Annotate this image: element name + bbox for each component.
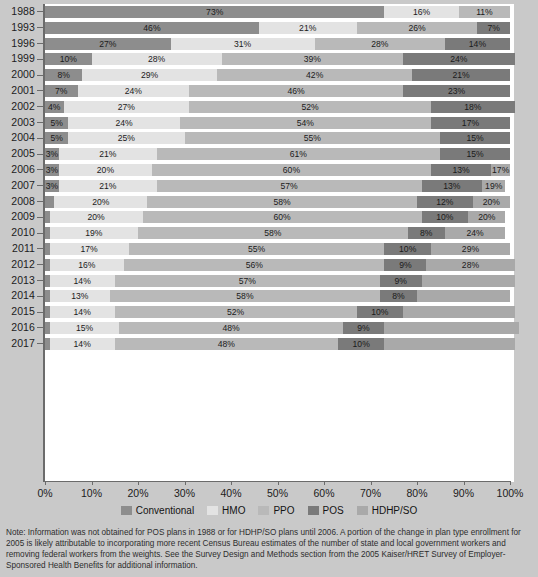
legend-label: PPO <box>273 505 294 516</box>
footnote: Note: Information was not obtained for P… <box>6 528 532 572</box>
bar-segment-ppo: 28% <box>315 38 445 50</box>
y-axis-tick-label: 2003 <box>0 115 35 131</box>
y-axis-tick-mark <box>37 217 43 218</box>
x-axis-tick-label: 100% <box>497 487 524 499</box>
bar-segment-hmo: 16% <box>384 6 458 18</box>
bar-row: 201216%56%9%28% <box>0 257 538 273</box>
bar-segment-pos: 7% <box>477 22 510 34</box>
y-axis-tick-label: 2010 <box>0 225 35 241</box>
bar-row: 20024%27%52%18% <box>0 99 538 115</box>
x-axis-tick-mark <box>278 481 279 485</box>
bar-segment-hmo: 15% <box>50 322 120 334</box>
bar-segment-hmo: 25% <box>68 132 184 144</box>
bar-row: 201514%52%10% <box>0 304 538 320</box>
bar-segment-hmo: 14% <box>50 275 115 287</box>
y-axis-tick-mark <box>37 27 43 28</box>
y-axis-tick-mark <box>37 43 43 44</box>
bar-segment-ppo: 60% <box>143 211 422 223</box>
x-axis-tick-label: 0% <box>37 487 52 499</box>
x-axis-tick-label: 20% <box>127 487 148 499</box>
bar-row: 199910%28%39%24% <box>0 51 538 67</box>
bar-segment-hmo: 17% <box>50 243 129 255</box>
bar-row: 201117%55%10%29% <box>0 241 538 257</box>
legend-item-hmo[interactable]: HMO <box>207 505 245 516</box>
y-axis-tick-mark <box>37 75 43 76</box>
y-axis-tick-label: 2002 <box>0 99 35 115</box>
stacked-bar: 10%28%39%24% <box>45 53 510 65</box>
bar-segment-pos: 13% <box>431 164 491 176</box>
bar-segment-pos: 9% <box>384 259 426 271</box>
legend-swatch-icon <box>121 506 132 515</box>
bar-row: 201314%57%9% <box>0 273 538 289</box>
legend-swatch-icon <box>258 506 269 515</box>
legend-label: POS <box>323 505 344 516</box>
bar-segment-conventional: 46% <box>45 22 259 34</box>
bar-segment-pos: 9% <box>380 275 422 287</box>
x-axis-tick-mark <box>371 481 372 485</box>
bar-segment-ppo: 42% <box>217 69 412 81</box>
bar-segment-conventional: 3% <box>45 164 59 176</box>
stacked-bar: 16%56%9%28% <box>45 259 510 271</box>
bar-segment-ppo: 55% <box>129 243 385 255</box>
x-axis-tick-mark <box>45 481 46 485</box>
bar-segment-ppo: 57% <box>115 275 380 287</box>
y-axis-tick-label: 2009 <box>0 209 35 225</box>
y-axis-tick-mark <box>37 233 43 234</box>
bar-segment-ppo: 57% <box>157 180 422 192</box>
bar-segment-hmo: 24% <box>78 85 190 97</box>
y-axis-tick-label: 2006 <box>0 162 35 178</box>
legend-item-conventional[interactable]: Conventional <box>121 505 194 516</box>
y-axis-tick-mark <box>37 280 43 281</box>
bar-row: 20073%21%57%13%19% <box>0 178 538 194</box>
bar-row: 20045%25%55%15% <box>0 130 538 146</box>
bar-segment-hdhp-so <box>403 306 515 318</box>
stacked-bar: 19%58%8%24% <box>45 227 510 239</box>
bar-segment-pos: 23% <box>403 85 510 97</box>
y-axis-tick-mark <box>37 248 43 249</box>
bar-segment-pos: 15% <box>440 132 510 144</box>
stacked-bar: 46%21%26%7% <box>45 22 510 34</box>
stacked-bar: 8%29%42%21% <box>45 69 510 81</box>
bar-segment-conventional: 73% <box>45 6 384 18</box>
legend-label: HDHP/SO <box>372 505 418 516</box>
legend-item-hdhp-so[interactable]: HDHP/SO <box>357 505 418 516</box>
x-axis-tick-label: 70% <box>360 487 381 499</box>
bar-segment-conventional: 5% <box>45 132 68 144</box>
legend-item-pos[interactable]: POS <box>308 505 344 516</box>
y-axis-tick-label: 1999 <box>0 51 35 67</box>
x-axis-tick-label: 30% <box>174 487 195 499</box>
plot-area: 198873%16%11%199346%21%26%7%199627%31%28… <box>0 4 538 486</box>
bar-segment-pos: 10% <box>357 306 404 318</box>
x-axis-tick-label: 10% <box>81 487 102 499</box>
bar-segment-conventional: 5% <box>45 117 68 129</box>
bar-segment-conventional: 27% <box>45 38 171 50</box>
y-axis-tick-label: 2016 <box>0 320 35 336</box>
x-axis-line <box>43 481 510 482</box>
bar-segment-hdhp-so: 29% <box>431 243 510 255</box>
stacked-bar: 13%58%8% <box>45 290 510 302</box>
bar-segment-hdhp-so: 24% <box>445 227 505 239</box>
bar-segment-hdhp-so <box>384 322 519 334</box>
bar-segment-conventional: 8% <box>45 69 82 81</box>
bar-segment-hmo: 21% <box>259 22 357 34</box>
stacked-bar: 27%31%28%14% <box>45 38 510 50</box>
x-axis-tick-mark <box>464 481 465 485</box>
y-axis-tick-label: 2011 <box>0 241 35 257</box>
y-axis-tick-mark <box>37 327 43 328</box>
x-axis-tick-mark <box>231 481 232 485</box>
bar-rows: 198873%16%11%199346%21%26%7%199627%31%28… <box>0 4 538 478</box>
y-axis-tick-mark <box>37 169 43 170</box>
y-axis-tick-label: 1996 <box>0 36 35 52</box>
legend-item-ppo[interactable]: PPO <box>258 505 294 516</box>
bar-segment-ppo: 39% <box>222 53 403 65</box>
bar-segment-pos: 14% <box>445 38 510 50</box>
y-axis-tick-label: 2008 <box>0 194 35 210</box>
bar-row: 199346%21%26%7% <box>0 20 538 36</box>
bar-row: 200920%60%10%20% <box>0 209 538 225</box>
bar-segment-hdhp-so: 17% <box>491 164 510 176</box>
bar-segment-ppo: 61% <box>157 148 441 160</box>
y-axis-tick-mark <box>37 106 43 107</box>
bar-segment-pos: 8% <box>408 227 445 239</box>
bar-segment-conventional <box>45 196 54 208</box>
y-axis-tick-mark <box>37 296 43 297</box>
